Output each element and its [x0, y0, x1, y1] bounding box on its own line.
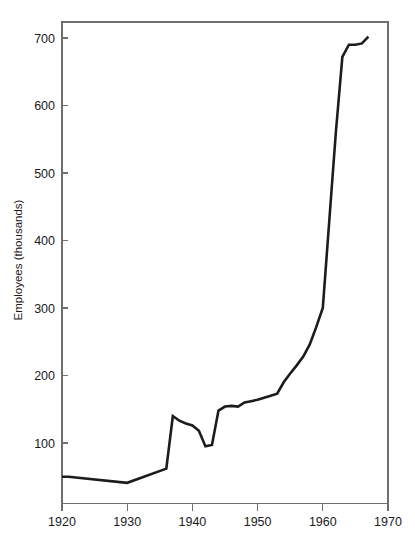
y-axis-tick-labels: 100200300400500600700	[34, 32, 55, 451]
line-chart-figure: 100200300400500600700 192019301940195019…	[0, 0, 415, 548]
x-tick-label-1950: 1950	[244, 515, 272, 529]
x-axis-ticks	[62, 504, 388, 511]
y-tick-label-500: 500	[34, 167, 55, 181]
y-axis-title-group: Employees (thousands)	[12, 199, 24, 320]
y-tick-label-400: 400	[34, 234, 55, 248]
x-tick-label-1970: 1970	[374, 515, 402, 529]
x-tick-label-1930: 1930	[113, 515, 141, 529]
y-axis-title: Employees (thousands)	[12, 199, 24, 320]
y-tick-label-700: 700	[34, 32, 55, 46]
y-axis-ticks	[62, 38, 68, 443]
y-tick-label-600: 600	[34, 99, 55, 113]
chart-container: 100200300400500600700 192019301940195019…	[0, 0, 415, 548]
y-tick-label-300: 300	[34, 302, 55, 316]
x-tick-label-1920: 1920	[48, 515, 76, 529]
x-tick-label-1940: 1940	[178, 515, 206, 529]
series-group	[62, 37, 368, 483]
x-axis-tick-labels: 192019301940195019601970	[48, 515, 402, 529]
y-tick-label-200: 200	[34, 369, 55, 383]
y-tick-label-100: 100	[34, 437, 55, 451]
x-tick-label-1960: 1960	[309, 515, 337, 529]
data-series-employees	[62, 37, 368, 483]
